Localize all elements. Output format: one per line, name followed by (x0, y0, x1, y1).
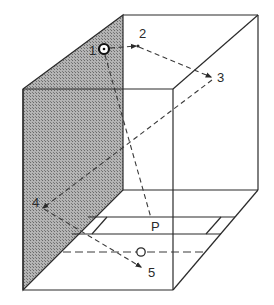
path-2-to-3 (139, 47, 211, 77)
box-reflection-diagram: 1 2 3 4 5 P (0, 0, 274, 305)
diagram-canvas: 1 2 3 4 5 P (0, 0, 274, 305)
top-right-depth-edge (173, 15, 258, 89)
point-2-dot (137, 45, 140, 48)
bottom-right-depth-edge (173, 190, 258, 290)
floor-strip-right-diag (206, 217, 221, 234)
label-5: 5 (148, 265, 155, 280)
source-circle-1-center (103, 48, 106, 51)
shaded-mirror-wall (23, 15, 123, 290)
label-2: 2 (139, 26, 146, 41)
label-4: 4 (32, 195, 39, 210)
label-1: 1 (89, 43, 96, 58)
label-P: P (151, 219, 160, 234)
observer-circle-icon (137, 248, 145, 256)
label-3: 3 (217, 70, 224, 85)
